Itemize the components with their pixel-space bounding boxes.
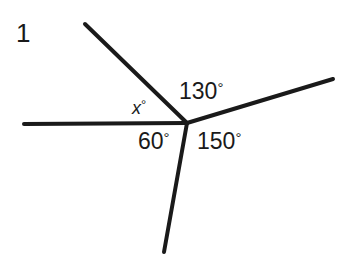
degree-symbol-icon: ° [141,97,146,112]
angle-variable-x: x [132,98,141,118]
rays-group [0,0,356,265]
degree-symbol-icon: ° [235,129,241,146]
angle-label-130: 130° [179,80,223,103]
ray-left-horizontal [24,123,187,124]
angle-label-60: 60° [138,130,170,153]
angle-value-150: 150 [197,128,235,154]
angle-diagram-figure: 1 x° 130° 60° 150° [0,0,356,265]
angle-label-150: 150° [197,130,241,153]
degree-symbol-icon: ° [217,79,223,96]
angle-label-x: x° [132,98,146,117]
degree-symbol-icon: ° [164,129,170,146]
angle-value-130: 130 [179,78,217,104]
item-number-label: 1 [16,20,31,46]
angle-value-60: 60 [138,128,164,154]
